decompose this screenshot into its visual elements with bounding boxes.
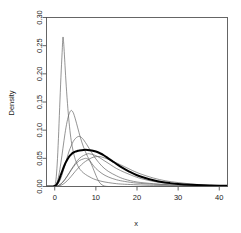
y-tick-label-0.30: 0.30 (35, 10, 44, 25)
y-tick-label-0.25: 0.25 (35, 38, 44, 53)
y-tick-label-0.05: 0.05 (35, 151, 44, 166)
x-axis-title: x (134, 219, 138, 228)
y-axis-title: Density (7, 90, 16, 115)
y-tick-label-0.00: 0.00 (35, 179, 44, 194)
chart-background (0, 0, 241, 233)
y-tick-label-0.20: 0.20 (35, 67, 44, 82)
x-tick-label-0: 0 (53, 193, 57, 202)
y-tick-label-0.15: 0.15 (35, 95, 44, 110)
x-tick-label-20: 20 (133, 193, 141, 202)
y-tick-label-0.10: 0.10 (35, 123, 44, 138)
x-tick-label-30: 30 (174, 193, 182, 202)
x-tick-label-40: 40 (215, 193, 223, 202)
x-tick-label-10: 10 (92, 193, 100, 202)
density-plot-figure: 0102030400.000.050.100.150.200.250.30 x … (0, 0, 241, 233)
chart-canvas: 0102030400.000.050.100.150.200.250.30 x … (0, 0, 241, 233)
